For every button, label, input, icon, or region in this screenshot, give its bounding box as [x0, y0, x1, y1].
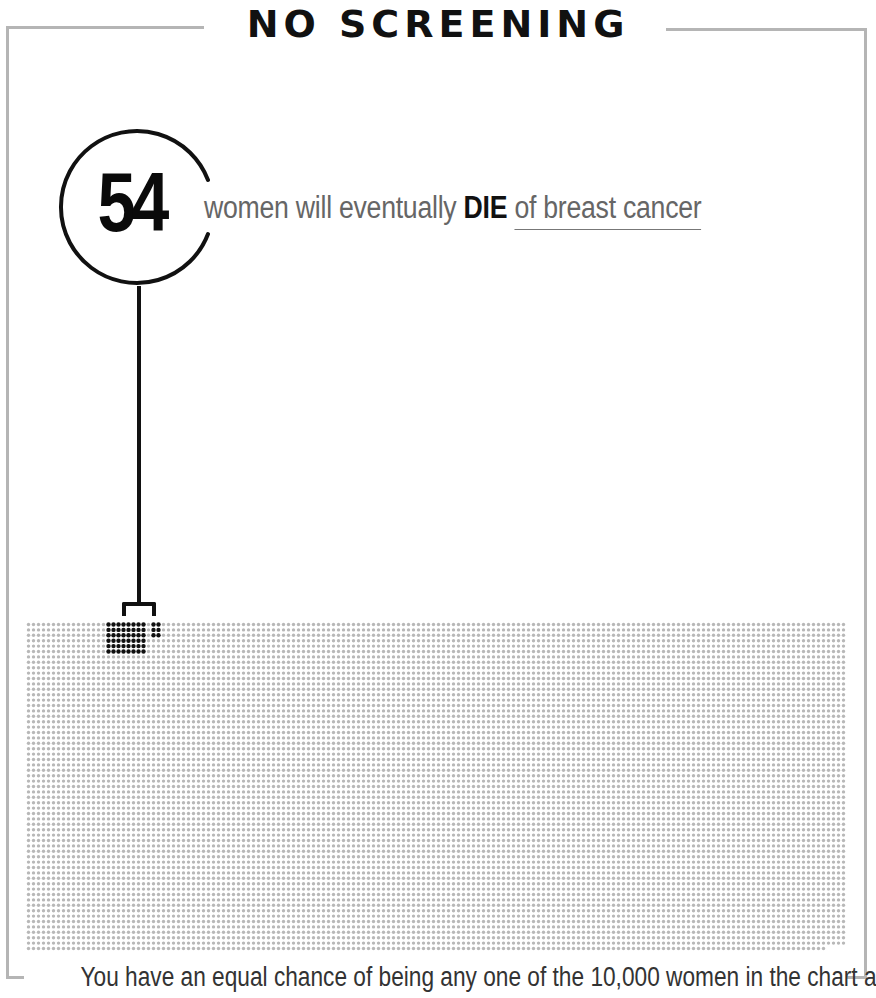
chart-caption: You have an equal chance of being any on…: [0, 962, 876, 993]
chart-title: NO SCREENING: [0, 2, 876, 46]
connector-line: [137, 286, 141, 604]
callout-number: 54: [94, 160, 168, 244]
callout-text-strong: DIE: [464, 190, 508, 225]
callout-text-pre: women will eventually: [204, 190, 464, 225]
bracket: [122, 602, 156, 616]
waffle-chart: [26, 622, 846, 952]
chart-caption-text: You have an equal chance of being any on…: [81, 962, 876, 993]
callout-text: women will eventually DIE of breast canc…: [204, 190, 701, 226]
callout-text-post: of breast cancer: [514, 190, 701, 230]
frame-left: [6, 26, 9, 978]
frame-right: [864, 28, 867, 978]
